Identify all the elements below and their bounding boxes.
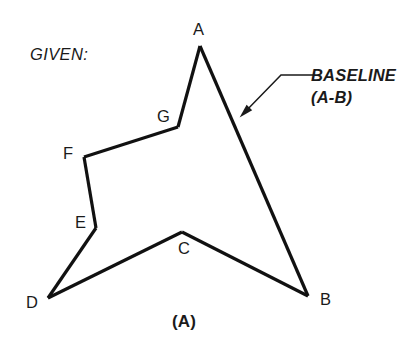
vertex-label-c: C (178, 240, 190, 257)
vertex-label-b: B (320, 291, 331, 308)
vertex-label-g: G (157, 108, 170, 125)
vertex-label-a: A (193, 21, 204, 38)
baseline-callout-leader (240, 75, 313, 118)
vertex-label-f: F (63, 145, 73, 162)
baseline-callout-line2: (A-B) (311, 89, 352, 106)
edge-a-g (178, 46, 200, 127)
edge-b-a-baseline (200, 46, 308, 296)
edge-c-b (182, 232, 308, 296)
baseline-callout-line1: BASELINE (311, 67, 396, 84)
vertex-label-e: E (75, 214, 86, 231)
edge-g-f (84, 127, 178, 157)
given-traverse-figure: GIVEN: BASELINE (A-B) A G F E D C B (A) (0, 0, 420, 358)
polygon-edges (48, 46, 308, 298)
figure-caption: (A) (172, 313, 196, 330)
given-label: GIVEN: (30, 46, 88, 63)
leader-line-path (244, 75, 314, 114)
vertex-label-d: D (26, 294, 38, 311)
edge-d-c (48, 232, 182, 298)
